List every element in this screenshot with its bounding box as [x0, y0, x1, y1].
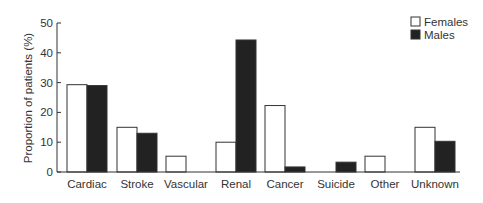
bar-males-unknown	[435, 141, 455, 172]
bars	[67, 40, 455, 172]
bar-males-suicide	[336, 162, 356, 172]
category-label: Cancer	[266, 178, 303, 190]
legend-label-females: Females	[424, 16, 468, 28]
legend-swatch-females	[411, 17, 420, 26]
y-axis: 01020304050	[40, 17, 61, 178]
bar-males-cardiac	[87, 86, 107, 172]
category-label: Unknown	[411, 178, 459, 190]
bar-females-cardiac	[67, 85, 87, 172]
category-label: Other	[371, 178, 400, 190]
bar-females-other	[365, 156, 385, 172]
bar-females-stroke	[117, 127, 137, 172]
category-label: Stroke	[120, 178, 153, 190]
y-tick-label: 30	[40, 77, 53, 89]
category-label: Renal	[221, 178, 251, 190]
bar-females-cancer	[265, 106, 285, 172]
y-tick-label: 50	[40, 17, 53, 29]
bar-males-renal	[236, 40, 256, 172]
y-tick-label: 0	[47, 166, 53, 178]
bar-chart: 01020304050 Proportion of patients (%) C…	[0, 0, 483, 203]
category-label: Cardiac	[67, 178, 107, 190]
y-tick-label: 10	[40, 136, 53, 148]
legend-swatch-males	[411, 30, 420, 39]
category-label: Suicide	[317, 178, 355, 190]
y-tick-label: 20	[40, 106, 53, 118]
bar-males-cancer	[285, 167, 305, 172]
bar-females-vascular	[166, 156, 186, 172]
category-labels: CardiacStrokeVascularRenalCancerSuicideO…	[67, 178, 459, 190]
legend-label-males: Males	[424, 29, 455, 41]
bar-males-stroke	[137, 133, 157, 172]
y-tick-label: 40	[40, 47, 53, 59]
bar-females-unknown	[415, 127, 435, 172]
y-axis-title: Proportion of patients (%)	[22, 33, 34, 164]
category-label: Vascular	[164, 178, 208, 190]
legend: FemalesMales	[411, 16, 468, 41]
bar-females-renal	[216, 142, 236, 172]
